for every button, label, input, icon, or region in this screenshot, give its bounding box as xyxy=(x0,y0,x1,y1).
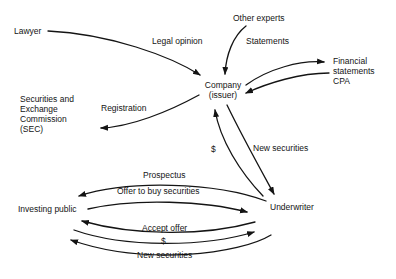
arrow-other-experts-to-company xyxy=(225,26,246,74)
edge-label-prospectus: Prospectus xyxy=(143,170,186,180)
node-lawyer: Lawyer xyxy=(14,26,41,36)
edge-label-accept-offer: Accept offer xyxy=(142,223,187,233)
node-sec: Securities and Exchange Commission (SEC) xyxy=(20,94,74,134)
edge-label-dollar-public-underwriter: $ xyxy=(161,236,166,246)
node-underwriter: Underwriter xyxy=(270,202,314,212)
arrow-public-to-underwriter-offer xyxy=(88,202,247,212)
arrow-cpa-to-company xyxy=(246,73,329,93)
edge-label-dollar-underwriter-company: $ xyxy=(211,144,216,154)
edge-label-new-securities-company-underwriter: New securities xyxy=(253,143,308,153)
arrow-underwriter-to-company-dollar xyxy=(215,110,263,196)
edge-label-registration: Registration xyxy=(101,103,146,113)
edge-label-legal-opinion: Legal opinion xyxy=(152,36,203,46)
node-company-issuer: Company (issuer) xyxy=(196,80,250,100)
node-investing-public: Investing public xyxy=(18,204,77,214)
edge-label-offer-to-buy-securities: Offer to buy securities xyxy=(117,186,200,196)
edge-label-new-securities-underwriter-public: New securities xyxy=(137,250,192,260)
node-other-experts: Other experts xyxy=(233,13,285,23)
node-cpa: Financial statements CPA xyxy=(333,56,375,86)
edge-label-statements: Statements xyxy=(246,36,289,46)
diagram-canvas: Lawyer Other experts Securities and Exch… xyxy=(0,0,396,279)
